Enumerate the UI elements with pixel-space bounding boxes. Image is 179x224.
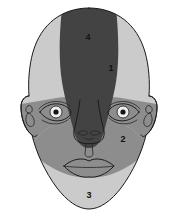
face-dermatome-figure: 1 2 3 4 — [0, 0, 179, 224]
left-pupil — [53, 109, 58, 114]
right-pupil — [120, 109, 125, 114]
region-2-label: 2 — [120, 134, 125, 144]
face-diagram-svg: 1 2 3 4 — [0, 0, 179, 224]
region-4-label: 4 — [85, 32, 90, 42]
region-3-label: 3 — [86, 190, 91, 200]
region-1-label: 1 — [108, 63, 113, 73]
